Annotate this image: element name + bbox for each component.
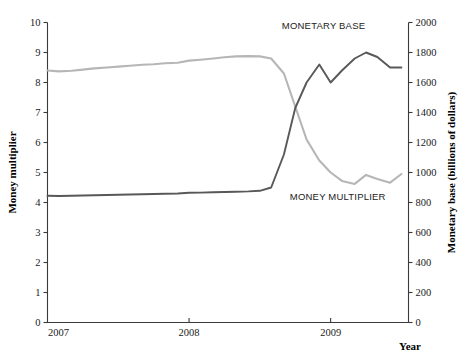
right-axis-title: Monetary base (billions of dollars): [445, 92, 458, 254]
left-axis-tick-label: 1: [35, 287, 40, 298]
chart-figure: 0123456789100200400600800100012001400160…: [0, 0, 472, 359]
left-axis-tick-label: 3: [35, 227, 40, 238]
left-axis-tick-label: 9: [35, 47, 40, 58]
series-line-money-multiplier: [48, 56, 402, 184]
left-axis-tick-label: 6: [35, 137, 40, 148]
left-axis-tick-label: 7: [35, 107, 40, 118]
right-axis-tick-label: 2000: [416, 17, 437, 28]
left-axis-title: Money multiplier: [6, 131, 18, 213]
right-axis-tick-label: 800: [416, 197, 432, 208]
left-axis-tick-label: 8: [35, 77, 40, 88]
left-axis-tick-label: 2: [35, 257, 40, 268]
series-line-monetary-base: [48, 53, 402, 197]
x-axis-tick-label: 2008: [179, 327, 200, 338]
right-axis-tick-label: 1000: [416, 167, 437, 178]
right-axis-tick-label: 200: [416, 287, 432, 298]
left-axis-tick-label: 5: [35, 167, 40, 178]
x-axis-title: Year: [399, 340, 421, 352]
right-axis-tick-label: 1600: [416, 77, 437, 88]
right-axis-tick-label: 0: [416, 317, 421, 328]
right-axis-tick-label: 400: [416, 257, 432, 268]
left-axis-tick-label: 0: [35, 317, 40, 328]
x-axis-tick-label: 2007: [48, 327, 69, 338]
right-axis-tick-label: 1200: [416, 137, 437, 148]
annotation-monetary-base: MONETARY BASE: [282, 20, 365, 31]
money-multiplier-monetary-base-chart: 0123456789100200400600800100012001400160…: [0, 0, 472, 359]
left-axis-tick-label: 4: [35, 197, 41, 208]
right-axis-tick-label: 1400: [416, 107, 437, 118]
right-axis-tick-label: 600: [416, 227, 432, 238]
left-axis-tick-label: 10: [30, 17, 41, 28]
annotation-money-multiplier: MONEY MULTIPLIER: [290, 191, 386, 202]
right-axis-tick-label: 1800: [416, 47, 437, 58]
x-axis-tick-label: 2009: [320, 327, 341, 338]
